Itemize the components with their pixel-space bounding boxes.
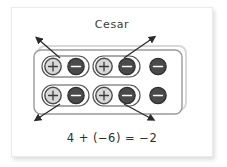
negative-chip[interactable] — [119, 58, 135, 74]
slide-card[interactable]: Cesar — [11, 7, 213, 157]
equation-text: 4 + (−6) = −2 — [12, 131, 212, 145]
negative-chip[interactable] — [119, 87, 135, 103]
page-title: Cesar — [12, 18, 212, 31]
negative-chip[interactable] — [68, 87, 84, 103]
integer-chip-model[interactable] — [12, 34, 212, 122]
negative-chip[interactable] — [68, 58, 84, 74]
negative-chip[interactable] — [150, 87, 166, 103]
positive-chip[interactable] — [45, 58, 61, 74]
positive-chip[interactable] — [96, 58, 112, 74]
positive-chip[interactable] — [45, 87, 61, 103]
positive-chip[interactable] — [96, 87, 112, 103]
negative-chip[interactable] — [150, 58, 166, 74]
screenshot-root: Cesar — [0, 0, 227, 167]
